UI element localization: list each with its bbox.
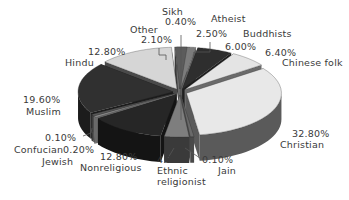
label-christian-pct: 32.80% bbox=[292, 129, 329, 139]
slice-side-jain bbox=[190, 137, 194, 163]
label-hindu-name: Hindu bbox=[65, 58, 94, 68]
label-jain-name: Jain bbox=[218, 166, 236, 176]
label-atheist-pct: 2.50% bbox=[196, 29, 227, 39]
label-other-pct: 2.10% bbox=[141, 35, 172, 45]
label-nonreligious-name: Nonreligious bbox=[80, 163, 142, 173]
label-buddhists-pct: 6.00% bbox=[225, 42, 256, 52]
label-christian-name: Christian bbox=[280, 140, 324, 150]
label-ethnic-name-2: religionist bbox=[157, 177, 206, 187]
label-muslim-name: Muslim bbox=[26, 107, 61, 117]
label-confucian-name: Confucian bbox=[14, 145, 63, 155]
label-jain-pct: 0.10% bbox=[202, 155, 233, 165]
label-atheist-name: Atheist bbox=[211, 14, 246, 24]
label-chinese-folk-name: Chinese folk bbox=[282, 58, 343, 68]
label-ethnic-pct: 4.20% bbox=[157, 155, 188, 165]
label-jewish-name: Jewish bbox=[42, 157, 73, 167]
label-sikh-pct: 0.40% bbox=[165, 17, 196, 27]
label-muslim-pct: 19.60% bbox=[23, 95, 60, 105]
label-confucian-pct: 0.10% bbox=[45, 133, 76, 143]
label-jewish-pct: 0.20% bbox=[63, 145, 94, 155]
label-ethnic-name-1: Ethnic bbox=[157, 166, 188, 176]
label-buddhists-name: Buddhists bbox=[243, 29, 292, 39]
label-nonreligious-pct: 12.80% bbox=[100, 152, 137, 162]
label-hindu-pct: 12.80% bbox=[88, 47, 125, 57]
